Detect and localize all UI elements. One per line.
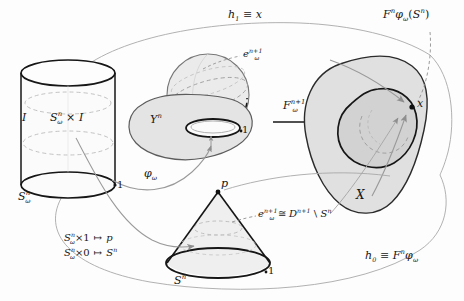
Yn-sup: n: [157, 112, 162, 120]
mt-p: p: [106, 232, 113, 243]
Fnp1-sub: ω: [292, 106, 297, 114]
cone-S-sup: n: [182, 273, 187, 281]
attached-circle-on-y: [186, 119, 240, 137]
phiw-sub: ω: [152, 174, 157, 182]
label-sphere-cell: en+1ω: [243, 48, 259, 60]
Fphi-phi: φ: [395, 8, 403, 21]
label-cone-base: Sn: [174, 275, 186, 288]
cylinder-shape: [21, 60, 115, 198]
label-cylinder-endpoint-1: 1: [117, 179, 123, 191]
h1-relation: ≡: [239, 8, 256, 21]
SxI-times: ×: [62, 111, 79, 124]
label-homotopy-top: h1 ≡ x: [228, 9, 262, 22]
mt-mapsto: ↦: [94, 232, 102, 243]
label-cylinder-body: Snω × I: [50, 112, 83, 125]
ecell-sub: ω: [254, 55, 259, 61]
topology-diagram: h1 ≡ x Fnφω(Sn) I Snω × I Snω 1 en+1ω Yn…: [0, 0, 464, 301]
label-induced-map: Fn+1ω: [283, 100, 298, 113]
ecell-sup: n+1: [249, 47, 262, 54]
phiw-phi: φ: [144, 167, 152, 180]
label-cylinder-base: Snω: [18, 191, 30, 204]
mb-S2-sup: n: [113, 246, 117, 253]
label-map-top: Snω×1↦p: [64, 230, 117, 245]
Fphi-F: F: [383, 8, 391, 21]
label-cell-iso: en+1ω ≅ Dn+1 \ Sn: [258, 208, 332, 220]
mt-one: 1: [83, 232, 89, 243]
SxI-I: I: [79, 111, 83, 124]
label-point-x: x: [417, 98, 423, 111]
label-attach-map: φω: [144, 168, 157, 181]
h0-relation: ≡: [376, 249, 393, 262]
h1-target: x: [256, 8, 262, 21]
space-x-blob: [304, 56, 427, 213]
cone-S: S: [174, 274, 182, 287]
label-y-circle-endpoint-1: 1: [242, 124, 248, 136]
h0-phi: φ: [405, 249, 413, 262]
label-space-y: Yn: [150, 114, 162, 127]
label-cone-apex: p: [221, 178, 228, 191]
h0-F: F: [393, 249, 401, 262]
Fphi-close-paren: ): [425, 8, 429, 21]
label-homotopy-bottom: h0 ≡ Fnφω: [365, 250, 418, 263]
label-quotient-maps: Snω×1↦p Snω×0↦Sn: [64, 230, 117, 260]
label-map-bottom: Snω×0↦Sn: [64, 245, 117, 260]
celliso-D-sup: n+1: [297, 207, 310, 214]
celliso-S-sup: n: [327, 207, 331, 214]
celliso-D: D: [289, 208, 297, 219]
mb-zero: 0: [83, 247, 89, 258]
Fnp1-F: F: [283, 99, 291, 112]
celliso-setminus: \: [310, 208, 320, 219]
h0-phi-sub: ω: [413, 256, 418, 264]
mb-mapsto: ↦: [94, 247, 102, 258]
label-image-top-right: Fnφω(Sn): [383, 9, 429, 22]
cone-shape: [166, 190, 270, 278]
celliso-cong: ≅: [274, 208, 289, 219]
label-cone-endpoint-1: 1: [268, 265, 274, 277]
Somega-sub: ω: [25, 197, 30, 205]
label-space-x: X: [356, 189, 365, 203]
label-cylinder-interval: I: [22, 112, 26, 125]
